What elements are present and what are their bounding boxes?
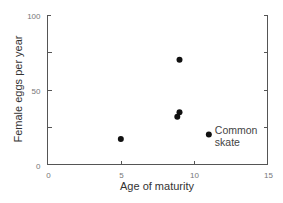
data-point	[118, 136, 124, 142]
annotation-common-skate-line1: Common	[215, 124, 258, 136]
annotation-common-skate-line2: skate	[215, 136, 240, 148]
x-tick-label: 0	[46, 171, 51, 180]
y-axis-label: Female eggs per year	[12, 35, 24, 142]
x-axis-label: Age of maturity	[120, 180, 194, 192]
y-tick-label: 0	[36, 162, 41, 171]
y-tick-label: 50	[32, 87, 41, 96]
x-ticks: 051015	[46, 161, 273, 180]
data-points	[118, 57, 212, 142]
data-point	[177, 57, 183, 63]
x-tick-label: 15	[264, 171, 273, 180]
y-tick-label: 100	[27, 12, 41, 21]
data-point	[174, 114, 180, 120]
x-tick-label: 5	[119, 171, 124, 180]
x-tick-label: 10	[190, 171, 199, 180]
scatter-chart: 051015 050100 Common skate Age of maturi…	[0, 0, 283, 203]
data-point-common-skate	[206, 132, 212, 138]
